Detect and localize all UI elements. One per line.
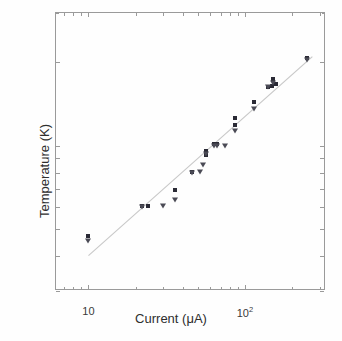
data-point-triangle (304, 57, 310, 62)
y-tick-mark (320, 291, 324, 292)
data-point-triangle (203, 151, 209, 156)
data-point-triangle (160, 204, 166, 209)
data-point-triangle (222, 143, 228, 148)
data-point-square (173, 188, 177, 192)
data-point-triangle (197, 169, 203, 174)
data-point-triangle (200, 162, 206, 167)
plot-frame: 34567891020 10102 (55, 12, 325, 290)
data-point-triangle (172, 198, 178, 203)
x-tick-label: 102 (237, 305, 253, 319)
data-point-triangle (232, 128, 238, 133)
data-point-square (233, 123, 237, 127)
figure-scatter-plot: Temperature (K) Current (μA) 34567891020… (0, 0, 342, 341)
data-point-triangle (85, 238, 91, 243)
data-points-layer (56, 13, 324, 289)
data-point-triangle (189, 170, 195, 175)
data-point-triangle (214, 143, 220, 148)
data-point-square (233, 116, 237, 120)
data-point-square (252, 100, 256, 104)
data-point-triangle (265, 85, 271, 90)
data-point-square (146, 204, 150, 208)
y-axis-title: Temperature (K) (37, 124, 52, 218)
data-point-triangle (139, 205, 145, 210)
y-tick-mark (56, 291, 60, 292)
x-tick-label: 10 (82, 305, 94, 317)
data-point-triangle (251, 106, 257, 111)
x-axis-title: Current (μA) (0, 311, 342, 326)
data-point-triangle (270, 81, 276, 86)
